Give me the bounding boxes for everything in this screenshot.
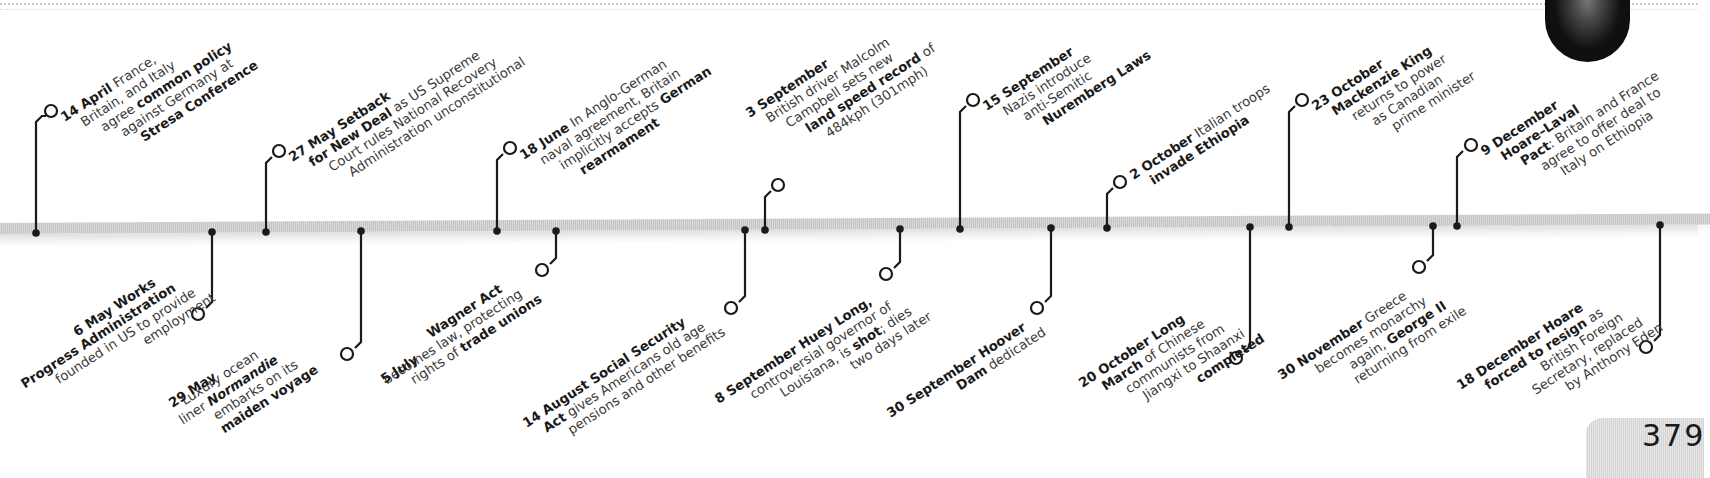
page-number: 379 xyxy=(1642,418,1705,453)
